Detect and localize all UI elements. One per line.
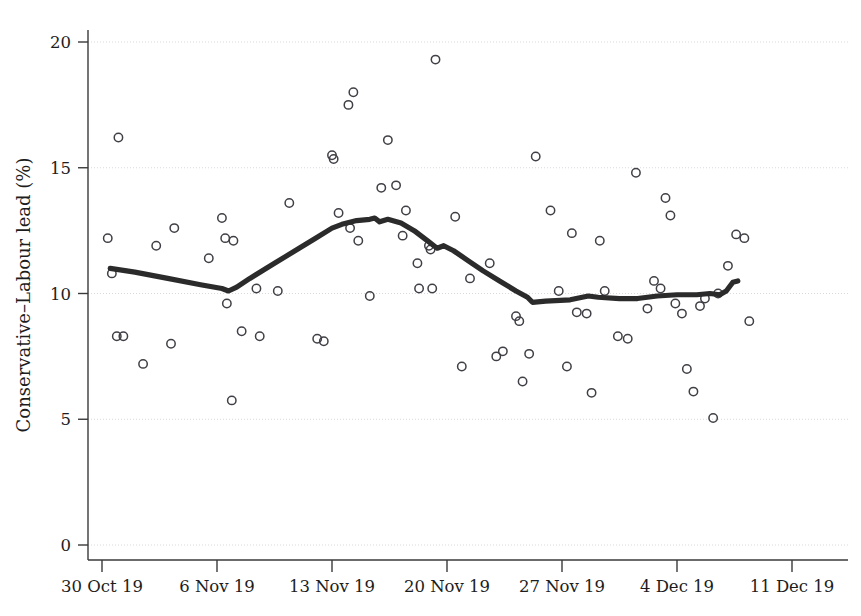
scatter-point — [546, 206, 554, 214]
y-tick-label: 15 — [50, 159, 71, 178]
scatter-point — [568, 229, 576, 237]
scatter-point — [139, 360, 147, 368]
scatter-point — [671, 299, 679, 307]
x-tick-label: 11 Dec 19 — [750, 577, 835, 596]
scatter-point — [377, 184, 385, 192]
scatter-point — [344, 101, 352, 109]
x-tick-label: 6 Nov 19 — [179, 577, 255, 596]
x-tick-label: 27 Nov 19 — [519, 577, 605, 596]
scatter-point — [392, 181, 400, 189]
y-axis-title: Conservative–Labour lead (%) — [13, 158, 34, 433]
scatter-point — [252, 284, 260, 292]
scatter-point — [167, 340, 175, 348]
scatter-point — [563, 362, 571, 370]
x-tick-label: 4 Dec 19 — [640, 577, 714, 596]
scatter-point — [582, 309, 590, 317]
scatter-point — [724, 262, 732, 270]
scatter-point — [656, 284, 664, 292]
scatter-plot-svg: 05101520 30 Oct 196 Nov 1913 Nov 1920 No… — [0, 0, 861, 616]
scatter-point — [573, 308, 581, 316]
scatter-point — [398, 231, 406, 239]
scatter-point — [525, 350, 533, 358]
scatter-point — [354, 236, 362, 244]
scatter-point — [349, 88, 357, 96]
scatter-point — [415, 284, 423, 292]
gridlines-group — [88, 42, 848, 545]
scatter-point — [228, 396, 236, 404]
x-tick-label: 13 Nov 19 — [289, 577, 375, 596]
scatter-point — [402, 206, 410, 214]
x-tick-label: 30 Oct 19 — [61, 577, 143, 596]
scatter-point — [384, 136, 392, 144]
scatter-point — [486, 259, 494, 267]
chart-figure: 05101520 30 Oct 196 Nov 1913 Nov 1920 No… — [0, 0, 861, 616]
scatter-point — [614, 332, 622, 340]
scatter-point — [689, 387, 697, 395]
scatter-point — [518, 377, 526, 385]
scatter-point — [114, 133, 122, 141]
scatter-point — [205, 254, 213, 262]
scatter-point — [366, 292, 374, 300]
scatter-point — [661, 194, 669, 202]
scatter-point — [428, 284, 436, 292]
scatter-point — [223, 299, 231, 307]
scatter-point — [221, 234, 229, 242]
y-tick-label: 5 — [61, 410, 72, 429]
scatter-point — [709, 414, 717, 422]
scatter-point — [256, 332, 264, 340]
scatter-point — [431, 55, 439, 63]
scatter-point — [740, 234, 748, 242]
scatter-point — [413, 259, 421, 267]
scatter-point — [624, 335, 632, 343]
scatter-point — [104, 234, 112, 242]
y-tick-label: 10 — [50, 285, 71, 304]
scatter-point — [170, 224, 178, 232]
y-tick-label: 0 — [61, 536, 72, 555]
scatter-point — [650, 277, 658, 285]
scatter-point — [334, 209, 342, 217]
scatter-point — [696, 302, 704, 310]
y-axis-ticks-group: 05101520 — [50, 33, 88, 555]
x-axis-ticks-group: 30 Oct 196 Nov 1913 Nov 1920 Nov 1927 No… — [61, 560, 834, 596]
scatter-point — [587, 389, 595, 397]
scatter-point — [458, 362, 466, 370]
scatter-point — [643, 304, 651, 312]
scatter-point — [229, 236, 237, 244]
scatter-point — [451, 213, 459, 221]
scatter-point — [532, 152, 540, 160]
scatter-point — [285, 199, 293, 207]
scatter-point — [666, 211, 674, 219]
scatter-point — [632, 169, 640, 177]
scatter-point — [499, 347, 507, 355]
scatter-point — [555, 287, 563, 295]
scatter-point — [678, 309, 686, 317]
scatter-point — [237, 327, 245, 335]
x-tick-label: 20 Nov 19 — [404, 577, 490, 596]
scatter-point — [218, 214, 226, 222]
scatter-point — [152, 242, 160, 250]
scatter-point — [596, 236, 604, 244]
scatter-point — [732, 230, 740, 238]
scatter-point — [466, 274, 474, 282]
scatter-point — [683, 365, 691, 373]
scatter-point — [745, 317, 753, 325]
y-tick-label: 20 — [50, 33, 71, 52]
